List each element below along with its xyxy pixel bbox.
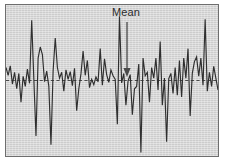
mean-annotation-label: Mean (112, 6, 140, 19)
mean-annotation-arrow (123, 22, 130, 77)
series-line-observations (6, 16, 218, 152)
plot-frame (5, 4, 219, 157)
figure-container: Mean (0, 0, 225, 164)
time-series-plot (6, 5, 218, 156)
